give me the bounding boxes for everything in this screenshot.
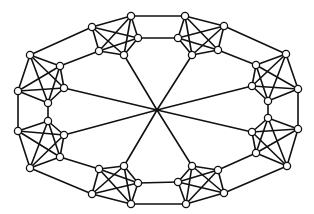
graph-diagram (0, 0, 314, 214)
graph-node-right-upper-4 (252, 61, 259, 68)
graph-node-bottom-right-2 (220, 189, 227, 196)
clique-edge-bottom-left (92, 194, 131, 204)
graph-node-top-left-3 (120, 51, 127, 58)
graph-node-top-right-0 (181, 12, 188, 19)
ring-link-edge (218, 153, 256, 170)
graph-node-left-lower-0 (44, 117, 51, 124)
clique-edge-right-lower (252, 129, 298, 132)
graph-node-right-lower-4 (248, 128, 255, 135)
graph-node-left-lower-2 (56, 153, 63, 160)
graph-node-right-upper-1 (294, 85, 301, 92)
graph-node-left-lower-1 (60, 131, 67, 138)
graph-node-left-upper-3 (44, 99, 51, 106)
graph-node-right-upper-3 (248, 82, 255, 89)
graph-node-top-right-1 (220, 22, 227, 29)
ring-link-edge (30, 27, 92, 55)
graph-node-top-left-2 (134, 34, 141, 41)
graph-node-bottom-right-3 (182, 200, 189, 207)
clique-edge-right-upper (252, 86, 298, 89)
spoke-edge-right-lower (157, 110, 252, 132)
graph-node-top-left-4 (95, 47, 102, 54)
graph-node-bottom-left-4 (95, 165, 102, 172)
graph-node-left-upper-0 (26, 51, 33, 58)
ring-link-edge (224, 166, 287, 193)
clique-edge-left-upper (18, 88, 64, 91)
ring-link-edge (224, 26, 286, 54)
clique-edge-left-upper (30, 55, 60, 66)
graph-node-left-lower-3 (26, 164, 33, 171)
graph-node-bottom-left-2 (127, 200, 134, 207)
graph-node-top-right-4 (174, 34, 181, 41)
ring-link-edge (30, 168, 92, 194)
graph-node-left-lower-4 (14, 127, 21, 134)
graph-node-bottom-left-3 (88, 190, 95, 197)
ring-link-edge (60, 51, 99, 66)
spoke-edge-bottom-right (157, 110, 192, 166)
spoke-edge-top-left (124, 55, 157, 110)
graph-node-left-upper-4 (14, 87, 21, 94)
graph-node-top-right-3 (188, 51, 195, 58)
ring-link-edge (60, 157, 99, 169)
spoke-edge-right-upper (157, 86, 252, 110)
spoke-edge-left-lower (64, 110, 157, 135)
graph-node-right-upper-2 (264, 97, 271, 104)
graph-node-bottom-right-1 (214, 166, 221, 173)
graph-node-left-upper-1 (56, 62, 63, 69)
graph-node-right-lower-2 (283, 162, 290, 169)
graph-node-right-lower-3 (252, 149, 259, 156)
clique-edge-left-lower (30, 157, 60, 168)
graph-node-bottom-right-0 (188, 162, 195, 169)
graph-node-bottom-left-0 (120, 162, 127, 169)
graph-node-right-upper-0 (282, 50, 289, 57)
ring-link-edge (218, 50, 256, 65)
graph-node-top-left-1 (127, 12, 134, 19)
graph-node-right-lower-1 (294, 125, 301, 132)
graph-node-bottom-left-1 (134, 179, 141, 186)
graph-node-bottom-right-4 (174, 178, 181, 185)
clique-edge-left-lower (18, 121, 48, 131)
spoke-edge-bottom-left (124, 110, 157, 166)
graph-node-top-right-2 (214, 46, 221, 53)
spoke-edge-left-upper (64, 88, 157, 110)
clique-edge-right-upper (256, 54, 286, 65)
graph-node-right-lower-0 (264, 114, 271, 121)
ring-link-edge (138, 182, 178, 183)
graph-node-top-left-0 (88, 23, 95, 30)
graph-node-left-upper-2 (60, 84, 67, 91)
center-hub-node (155, 108, 158, 111)
